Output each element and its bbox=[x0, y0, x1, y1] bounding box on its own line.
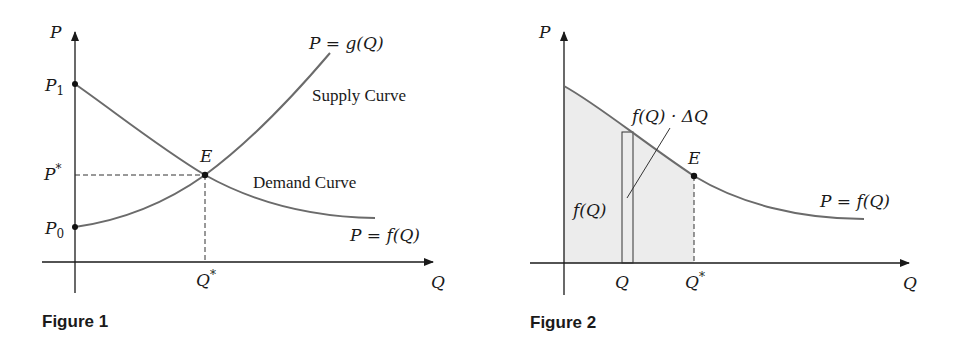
diagram-canvas: P Q P1 P* P0 Q* E P = g(Q) Supply Curv bbox=[0, 0, 956, 349]
figure2-demand-equation: P = f(Q) bbox=[819, 191, 890, 211]
figure2-x-axis-label: Q bbox=[903, 273, 917, 293]
figure1-caption: Figure 1 bbox=[42, 312, 108, 331]
figure2-equilibrium-label: E bbox=[687, 148, 701, 168]
figure1-supply-curve bbox=[75, 53, 330, 227]
figure2-equilibrium-point bbox=[691, 173, 697, 179]
figure2-caption: Figure 2 bbox=[530, 313, 596, 332]
figure2-y-axis-label: P bbox=[538, 22, 551, 42]
figure2-qstar-label: Q* bbox=[685, 270, 705, 292]
figure1-p0-label: P0 bbox=[44, 218, 64, 241]
figure1-qstar-label: Q* bbox=[196, 268, 216, 290]
figure1-y-axis-label: P bbox=[49, 22, 62, 42]
figure1-equilibrium-label: E bbox=[199, 146, 213, 166]
figure1-demand-label: Demand Curve bbox=[253, 173, 356, 192]
figure1-pstar-label: P* bbox=[43, 162, 61, 184]
figure1-equilibrium-point bbox=[202, 172, 208, 178]
figure1-p1-point bbox=[72, 81, 78, 87]
figure1-demand-equation: P = f(Q) bbox=[349, 225, 420, 245]
figure1-supply-label: Supply Curve bbox=[312, 86, 406, 105]
figure2-q-label: Q bbox=[615, 272, 629, 292]
figure1-p1-label: P1 bbox=[44, 75, 64, 98]
figure-1: P Q P1 P* P0 Q* E P = g(Q) Supply Curv bbox=[42, 22, 445, 331]
figure-2: P Q E f(Q) · ΔQ f(Q) P = f(Q) Q Q* Figur… bbox=[530, 22, 917, 332]
figure2-height-label: f(Q) bbox=[571, 200, 607, 220]
figure1-x-axis-label: Q bbox=[431, 272, 445, 292]
figure2-strip-area-label: f(Q) · ΔQ bbox=[630, 106, 708, 126]
figure1-supply-equation: P = g(Q) bbox=[308, 33, 384, 53]
figure1-p0-point bbox=[72, 224, 78, 230]
